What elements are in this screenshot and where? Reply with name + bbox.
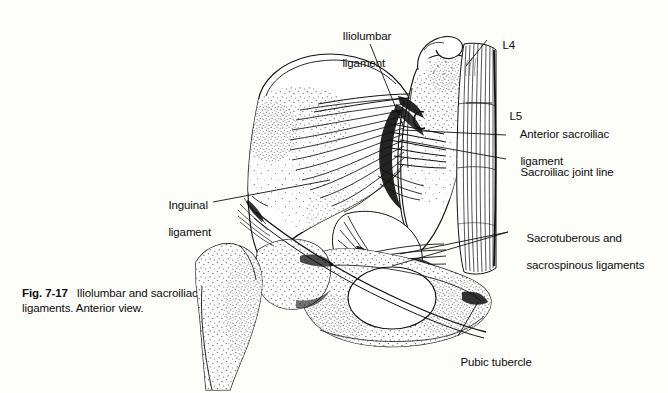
- label-l4-text: L4: [502, 39, 515, 51]
- label-inguinal-line1: Inguinal: [168, 199, 207, 211]
- label-iliolumbar-line2: ligament: [342, 57, 385, 69]
- label-sacroiliac-joint-line: Sacroiliac joint line: [508, 152, 614, 193]
- label-pubic-tubercle: Pubic tubercle: [448, 342, 532, 383]
- anatomy-figure: Iliolumbar ligament L4 L5 Anterior sacro…: [0, 0, 668, 393]
- label-l4: L4: [490, 25, 515, 66]
- caption-line-2: ligaments. Anterior view.: [22, 301, 252, 316]
- figure-caption: Fig. 7-17Iliolumbar and sacroiliac ligam…: [22, 286, 252, 315]
- caption-figure-number: Fig. 7-17: [22, 287, 68, 299]
- label-inguinal-line2: ligament: [168, 226, 211, 238]
- label-anterior-sacroiliac-line1: Anterior sacroiliac: [520, 128, 610, 140]
- caption-line-1: Fig. 7-17Iliolumbar and sacroiliac: [22, 286, 252, 301]
- label-sacrotuberous-line2: sacrospinous ligaments: [526, 259, 644, 271]
- lumbar-vertebrae: [457, 43, 496, 274]
- caption-text-line1: Iliolumbar and sacroiliac: [77, 287, 198, 299]
- label-iliolumbar-ligament: Iliolumbar ligament: [330, 16, 391, 84]
- label-sacrotuberous-sacrospinous: Sacrotuberous and sacrospinous ligaments: [514, 218, 644, 286]
- label-iliolumbar-line1: Iliolumbar: [342, 30, 391, 42]
- label-sacroiliac-joint-line-text: Sacroiliac joint line: [520, 166, 613, 178]
- label-sacrotuberous-line1: Sacrotuberous and: [526, 232, 621, 244]
- label-inguinal-ligament: Inguinal ligament: [156, 185, 211, 253]
- label-pubic-tubercle-text: Pubic tubercle: [460, 356, 531, 368]
